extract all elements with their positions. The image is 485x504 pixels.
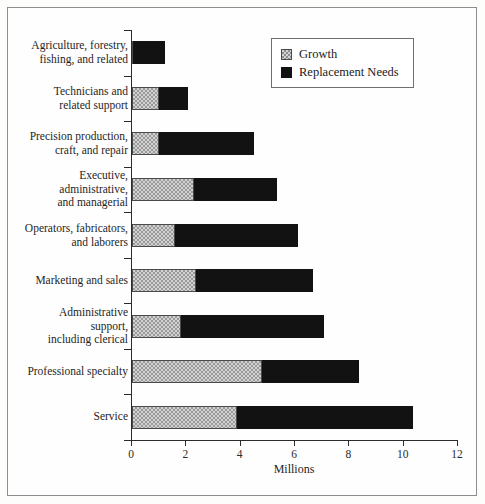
legend-entry-replacement-needs: Replacement Needs	[281, 63, 399, 81]
x-tick-label: 8	[345, 448, 351, 460]
bar-segment-replacement-needs	[181, 315, 324, 338]
x-tick-label: 10	[397, 448, 409, 460]
x-tick-mark	[131, 440, 132, 446]
bar-segment-growth	[132, 360, 262, 383]
bar-segment-replacement-needs	[262, 360, 358, 383]
x-tick-label: 2	[182, 448, 188, 460]
bar-row	[132, 178, 458, 201]
bar-row	[132, 269, 458, 292]
bar-segment-growth	[132, 315, 181, 338]
bar-row	[132, 406, 458, 429]
bar-segment-growth	[132, 224, 175, 247]
category-labels: Agriculture, forestry, fishing, and rela…	[0, 30, 128, 440]
category-label: Administrative support, including cleric…	[0, 306, 128, 347]
bar-segment-replacement-needs	[159, 132, 254, 155]
bar-segment-growth	[132, 269, 196, 292]
x-tick-mark	[240, 440, 241, 446]
y-tick-mark	[124, 440, 131, 441]
bar-segment-replacement-needs	[133, 41, 164, 64]
bar-segment-growth	[132, 132, 159, 155]
bar-row	[132, 315, 458, 338]
bar-segment-replacement-needs	[194, 178, 277, 201]
legend-swatch-growth-icon	[281, 49, 292, 60]
category-label: Technicians and related support	[0, 85, 128, 112]
bar-segment-replacement-needs	[196, 269, 313, 292]
x-tick-mark	[403, 440, 404, 446]
category-label: Service	[0, 410, 128, 424]
category-label: Precision production, craft, and repair	[0, 130, 128, 157]
bar-row	[132, 132, 458, 155]
bar-segment-replacement-needs	[175, 224, 297, 247]
x-axis-title: Millions	[131, 462, 457, 477]
x-tick-mark	[294, 440, 295, 446]
x-tick-label: 4	[237, 448, 243, 460]
category-label: Marketing and sales	[0, 274, 128, 288]
x-tick-mark	[457, 440, 458, 446]
bar-segment-replacement-needs	[237, 406, 414, 429]
category-label: Agriculture, forestry, fishing, and rela…	[0, 39, 128, 66]
bar-row	[132, 87, 458, 110]
bar-row	[132, 224, 458, 247]
legend-entry-growth: Growth	[281, 45, 399, 63]
category-label: Executive, administrative, and manageria…	[0, 169, 128, 210]
chart-legend: Growth Replacement Needs	[271, 38, 414, 88]
chart-figure: 024681012 Agriculture, forestry, fishing…	[0, 0, 485, 504]
bar-segment-growth	[132, 87, 159, 110]
bar-row	[132, 360, 458, 383]
legend-label-replacement-needs: Replacement Needs	[299, 65, 399, 80]
x-tick-mark	[348, 440, 349, 446]
legend-label-growth: Growth	[299, 47, 337, 62]
legend-swatch-replacement-icon	[281, 67, 292, 78]
bar-segment-growth	[132, 406, 237, 429]
category-label: Professional specialty	[0, 365, 128, 379]
plot-area: 024681012 Agriculture, forestry, fishing…	[131, 30, 457, 440]
bar-segment-replacement-needs	[159, 87, 188, 110]
x-tick-label: 0	[128, 448, 134, 460]
x-tick-mark	[185, 440, 186, 446]
x-tick-label: 12	[451, 448, 463, 460]
category-label: Operators, fabricators, and laborers	[0, 222, 128, 249]
bar-segment-growth	[132, 178, 194, 201]
x-tick-label: 6	[291, 448, 297, 460]
